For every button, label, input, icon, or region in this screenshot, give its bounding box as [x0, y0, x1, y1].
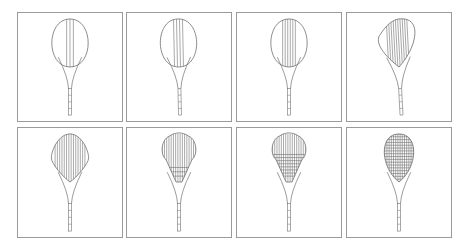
racket-throat	[167, 57, 191, 89]
strings	[283, 19, 296, 67]
racket-panel-6	[126, 127, 232, 238]
racket-panel-8	[346, 127, 452, 238]
racket-drawing	[18, 128, 122, 237]
racket-panel-2	[126, 12, 232, 122]
strings	[266, 134, 311, 182]
racket-drawing	[347, 13, 451, 121]
racket-head-frame	[271, 19, 307, 67]
racket-drawing	[347, 128, 451, 237]
racket-panel-1	[17, 12, 123, 122]
racket-throat	[167, 172, 191, 203]
racket-drawing	[127, 13, 231, 121]
racket-head-frame	[160, 19, 197, 68]
racket-drawing	[127, 128, 231, 237]
racket-drawing	[237, 128, 341, 237]
racket-panel-4	[346, 12, 452, 122]
racket-drawing	[18, 13, 122, 121]
strings	[174, 19, 184, 67]
strings	[386, 18, 409, 67]
racket-panel-7	[236, 127, 342, 238]
racket-throat	[58, 172, 82, 203]
racket-panel-5	[17, 127, 123, 238]
racket-drawing	[237, 13, 341, 121]
strings	[156, 134, 201, 182]
racket-throat	[277, 172, 301, 203]
strings	[376, 134, 421, 182]
racket-throat	[387, 172, 411, 203]
racket-panel-3	[236, 12, 342, 122]
strings	[67, 19, 74, 67]
racket-head-frame	[51, 134, 88, 182]
racket-head-frame	[162, 133, 196, 182]
racket-throat	[387, 57, 412, 90]
racket-throat	[277, 57, 301, 88]
racket-head-frame	[377, 18, 416, 68]
